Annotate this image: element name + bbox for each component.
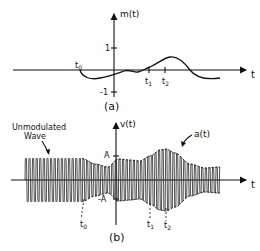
envelope-label: a(t) [194, 129, 210, 139]
unmodulated-arrowhead-icon [46, 149, 50, 155]
a-tick-neg1-label: -1 [100, 88, 108, 97]
b-tick-A-label: A [104, 151, 110, 160]
a-t2-label: t2 [162, 77, 169, 87]
a-t0-label: t0 [75, 61, 82, 71]
b-y-label: v(t) [120, 119, 136, 129]
am-modulation-diagram: m(t) t 1 -1 t0 t1 t2 (a) v(t) t A -A Unm… [0, 0, 260, 251]
message-curve [80, 57, 220, 79]
figure-b-modulated-wave: v(t) t A -A Unmodulated Wave a(t) t0 t1 … [11, 119, 255, 244]
a-x-label: t [251, 69, 255, 80]
envelope-arrowhead-icon [181, 141, 186, 147]
unmodulated-label-1: Unmodulated [12, 123, 66, 132]
a-caption: (a) [104, 100, 119, 113]
a-y-label: m(t) [120, 9, 139, 19]
b-t0-dashline [81, 199, 84, 219]
b-t1-label: t1 [147, 220, 154, 230]
b-t2-label: t2 [164, 221, 171, 231]
b-t0-label: t0 [80, 220, 87, 230]
unmodulated-label-2: Wave [24, 132, 46, 141]
a-t1-label: t1 [145, 77, 152, 87]
figure-a-message-signal: m(t) t 1 -1 t0 t1 t2 (a) [13, 9, 255, 113]
b-caption: (b) [109, 231, 125, 244]
b-tick-negA-label: -A [98, 195, 107, 204]
b-x-label: t [251, 179, 255, 190]
a-tick-1-label: 1 [105, 44, 110, 53]
